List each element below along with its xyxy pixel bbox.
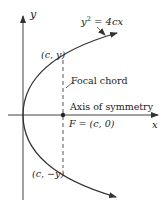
focus-label: F = (c, 0) (68, 118, 115, 129)
equation-leader (97, 27, 105, 35)
axis-of-symmetry-label: Axis of symmetry (69, 101, 154, 112)
x-axis-label: x (152, 119, 158, 130)
focus-point (61, 113, 65, 117)
focal-chord-label: Focal chord (71, 75, 128, 86)
lower-point-label: (c, −y) (32, 168, 64, 179)
upper-point-label: (c, y) (41, 49, 65, 60)
parabola-diagram: y x y2 = 4cx (c, y) Focal chord Axis of … (0, 0, 167, 208)
equation-label: y2 = 4cx (80, 15, 123, 27)
y-axis-label: y (29, 8, 37, 21)
